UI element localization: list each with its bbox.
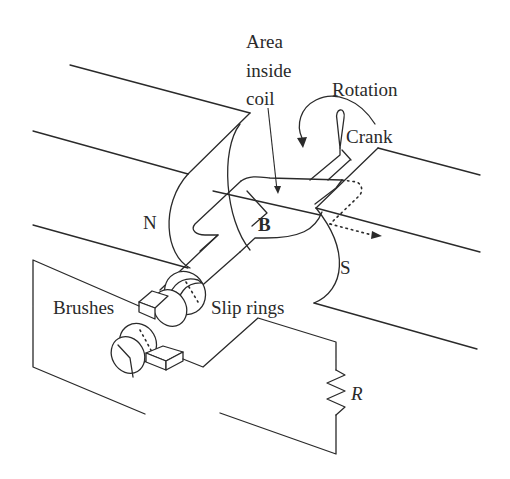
- rotated-coil-dotted: [330, 180, 382, 239]
- label-resistor: R: [350, 383, 363, 404]
- rotation-arrowhead-icon: [297, 137, 307, 148]
- coil: [160, 110, 351, 298]
- label-area: Area: [246, 31, 283, 52]
- label-inside: inside: [246, 60, 291, 81]
- field-line: [213, 191, 320, 215]
- resistor-icon: [327, 370, 345, 415]
- label-coil: coil: [246, 88, 275, 109]
- label-field-b: B: [258, 214, 271, 235]
- label-south: S: [340, 257, 351, 278]
- area-pointer-arrowhead-icon: [274, 186, 281, 194]
- label-slip-rings: Slip rings: [211, 297, 284, 318]
- label-crank: Crank: [346, 126, 393, 147]
- ac-generator-diagram: Area inside coil Rotation Crank N S B Br…: [0, 0, 510, 479]
- south-magnet: [314, 148, 480, 349]
- motion-arrow-icon: [371, 231, 382, 239]
- label-rotation: Rotation: [332, 79, 398, 100]
- north-magnet: [33, 65, 250, 268]
- label-brushes: Brushes: [53, 297, 114, 318]
- label-north: N: [143, 212, 157, 233]
